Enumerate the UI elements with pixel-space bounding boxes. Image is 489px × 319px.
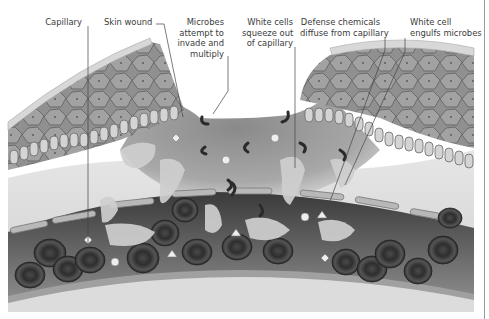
label-line: attempt to xyxy=(176,28,224,39)
label-defense-chemicals: Defense chemicals diffuse from capillary xyxy=(300,17,380,38)
label-skin-wound: Skin wound xyxy=(104,17,152,28)
label-white-cell-engulfs: White cell engulfs microbes xyxy=(410,17,482,38)
label-microbes: Microbes attempt to invade and multiply xyxy=(176,17,224,59)
label-line: invade and xyxy=(176,38,224,49)
page-border xyxy=(484,0,485,319)
label-line: Microbes xyxy=(176,17,224,28)
label-white-cells-squeeze: White cells squeeze out of capillary xyxy=(242,17,293,49)
label-line: multiply xyxy=(176,49,224,60)
inflammation-diagram: Capillary Skin wound Microbes attempt to… xyxy=(0,0,489,319)
label-capillary: Capillary xyxy=(40,17,82,28)
label-line: squeeze out xyxy=(242,28,293,39)
label-line: Skin wound xyxy=(104,17,152,28)
label-line: diffuse from capillary xyxy=(300,28,380,39)
label-line: White cell xyxy=(410,17,482,28)
label-line: White cells xyxy=(242,17,293,28)
label-line: Capillary xyxy=(40,17,82,28)
label-line: engulfs microbes xyxy=(410,28,482,39)
label-line: of capillary xyxy=(242,38,293,49)
label-line: Defense chemicals xyxy=(300,17,380,28)
